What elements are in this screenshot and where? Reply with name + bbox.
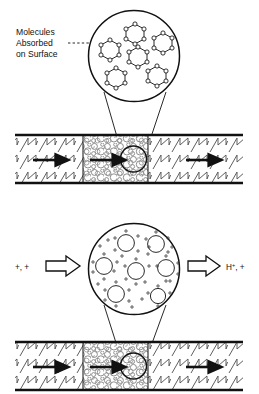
lower-magnifier-lens bbox=[89, 224, 180, 315]
protonation-panel: +, + H+, + bbox=[15, 224, 245, 391]
annotation-line-2: Absorbed bbox=[16, 38, 53, 48]
upper-channel bbox=[15, 135, 243, 183]
annotation-molecules-absorbed: Molecules Absorbed on Surface bbox=[16, 27, 58, 59]
adsorption-panel: Molecules Absorbed on Surface bbox=[15, 11, 243, 184]
annotation-line-1: Molecules bbox=[16, 27, 55, 37]
annotation-line-3: on Surface bbox=[16, 49, 58, 59]
lower-channel bbox=[15, 342, 243, 390]
outlet-tail: , + bbox=[235, 263, 245, 272]
diagram-canvas: Molecules Absorbed on Surface bbox=[0, 0, 259, 394]
inlet-flow-arrow bbox=[46, 256, 80, 276]
diagram-svg: Molecules Absorbed on Surface bbox=[0, 0, 259, 394]
outlet-ion-label: H+, + bbox=[226, 262, 245, 272]
inlet-ion-label: +, + bbox=[15, 263, 29, 272]
outlet-flow-arrow bbox=[188, 256, 220, 276]
svg-text:H+, +: H+, + bbox=[226, 262, 245, 272]
